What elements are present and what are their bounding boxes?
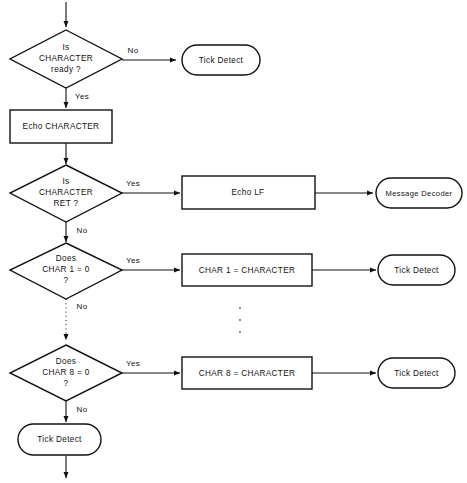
edge-label-char1-no: No [77,302,88,311]
decision-char8-zero[interactable]: Does CHAR 8 = 0 ? [10,345,122,401]
edge-label-char-ready-no: No [128,46,139,55]
process-echo-lf-label: Echo LF [232,188,265,197]
decision-character-ready-line3: ready ? [51,65,81,74]
ellipsis-middle-column [239,307,241,333]
process-char1-assign[interactable]: CHAR 1 = CHARACTER [182,254,312,286]
decision-character-ret[interactable]: Is CHARACTER RET ? [10,165,122,222]
process-echo-character[interactable]: Echo CHARACTER [10,110,112,143]
decision-character-ready[interactable]: Is CHARACTER ready ? [10,30,122,88]
terminator-tick-detect-3-label: Tick Detect [394,369,439,378]
edge-label-char-ready-yes: Yes [75,92,89,101]
decision-character-ready-line2: CHARACTER [39,54,93,63]
process-echo-character-label: Echo CHARACTER [23,122,100,131]
terminator-tick-detect-exit[interactable]: Tick Detect [18,424,101,455]
terminator-tick-detect-3[interactable]: Tick Detect [378,358,455,388]
process-char8-assign[interactable]: CHAR 8 = CHARACTER [182,357,312,389]
terminator-tick-detect-1-label: Tick Detect [199,56,244,65]
process-char8-assign-label: CHAR 8 = CHARACTER [199,369,296,378]
edge-label-char-ret-no: No [77,226,88,235]
decision-character-ret-line3: RET ? [54,199,79,208]
edge-label-char8-yes: Yes [126,359,140,368]
terminator-tick-detect-1[interactable]: Tick Detect [182,45,260,75]
process-echo-lf[interactable]: Echo LF [182,176,315,209]
decision-char1-zero-line2: CHAR 1 = 0 [42,265,90,274]
edge-label-char1-yes: Yes [126,256,140,265]
decision-char1-zero-line3: ? [64,276,69,285]
decision-character-ret-line1: Is [62,177,69,186]
decision-char8-zero-line1: Does [56,357,77,366]
terminator-message-decoder[interactable]: Message Decoder [376,178,462,208]
decision-char1-zero-line1: Does [56,254,77,263]
edge-label-char8-no: No [77,405,88,414]
terminator-tick-detect-2[interactable]: Tick Detect [378,255,455,285]
process-char1-assign-label: CHAR 1 = CHARACTER [199,266,296,275]
edge-label-char-ret-yes: Yes [126,179,140,188]
decision-char1-zero[interactable]: Does CHAR 1 = 0 ? [10,243,122,299]
decision-char8-zero-line2: CHAR 8 = 0 [42,368,90,377]
terminator-tick-detect-2-label: Tick Detect [394,266,439,275]
decision-character-ready-line1: Is [62,43,69,52]
terminator-message-decoder-label: Message Decoder [386,189,453,198]
decision-character-ret-line2: CHARACTER [39,188,93,197]
flowchart-canvas: Is CHARACTER ready ? Tick Detect Echo CH… [0,0,467,483]
terminator-tick-detect-exit-label: Tick Detect [37,435,82,444]
decision-char8-zero-line3: ? [64,379,69,388]
